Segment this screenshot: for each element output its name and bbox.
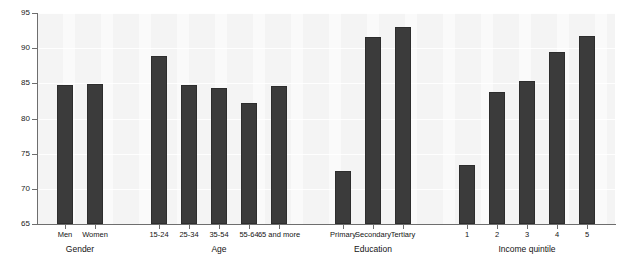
bar — [335, 171, 351, 224]
category-label: 1 — [465, 231, 469, 239]
gridline-95 — [37, 13, 615, 14]
y-tick-label-95: 95 — [8, 9, 30, 17]
category-label: Tertiary — [391, 231, 416, 239]
bar-chart: 65707580859095 MenWomen15-2425-3435-5455… — [0, 0, 623, 260]
x-tick — [159, 225, 160, 229]
y-tick-70 — [32, 189, 37, 190]
gridline-90 — [37, 48, 615, 49]
bar — [211, 88, 227, 224]
bar — [579, 36, 595, 224]
x-tick — [557, 225, 558, 229]
x-tick — [527, 225, 528, 229]
x-tick — [373, 225, 374, 229]
category-label: 55-64 — [239, 231, 258, 239]
bar — [87, 84, 103, 224]
bar — [489, 92, 505, 224]
category-label: Primary — [330, 231, 356, 239]
y-tick-label-70: 70 — [8, 185, 30, 193]
y-tick-65 — [32, 224, 37, 225]
y-tick-label-65: 65 — [8, 220, 30, 228]
y-tick-label-80: 80 — [8, 115, 30, 123]
y-tick-85 — [32, 83, 37, 84]
x-tick — [467, 225, 468, 229]
bar — [395, 27, 411, 224]
y-tick-75 — [32, 154, 37, 155]
category-label: 25-34 — [179, 231, 198, 239]
bar — [459, 165, 475, 224]
y-tick-label-85: 85 — [8, 79, 30, 87]
bar — [151, 56, 167, 224]
x-tick — [65, 225, 66, 229]
x-tick — [497, 225, 498, 229]
category-label: 2 — [495, 231, 499, 239]
category-label: 15-24 — [149, 231, 168, 239]
bar — [57, 85, 73, 224]
group-label: Gender — [66, 245, 94, 254]
y-tick-95 — [32, 13, 37, 14]
y-tick-label-90: 90 — [8, 44, 30, 52]
y-tick-label-75: 75 — [8, 150, 30, 158]
category-label: 5 — [585, 231, 589, 239]
bar — [519, 81, 535, 224]
x-tick — [403, 225, 404, 229]
category-label: 35-54 — [209, 231, 228, 239]
group-label: Income quintile — [498, 245, 555, 254]
x-tick — [189, 225, 190, 229]
group-label: Age — [211, 245, 226, 254]
x-tick — [279, 225, 280, 229]
x-axis-line — [37, 224, 616, 225]
y-tick-90 — [32, 48, 37, 49]
x-tick — [249, 225, 250, 229]
category-label: Secondary — [355, 231, 391, 239]
bar — [271, 86, 287, 224]
bar — [365, 37, 381, 224]
x-tick — [587, 225, 588, 229]
bar — [181, 85, 197, 224]
x-tick — [95, 225, 96, 229]
bar — [549, 52, 565, 224]
category-label: Women — [82, 231, 108, 239]
y-tick-80 — [32, 119, 37, 120]
x-tick — [343, 225, 344, 229]
y-axis-line — [37, 13, 38, 225]
x-tick — [219, 225, 220, 229]
category-label: 65 and more — [258, 231, 300, 239]
category-label: Men — [58, 231, 73, 239]
bar — [241, 103, 257, 224]
category-label: 4 — [555, 231, 559, 239]
group-label: Education — [354, 245, 392, 254]
category-label: 3 — [525, 231, 529, 239]
